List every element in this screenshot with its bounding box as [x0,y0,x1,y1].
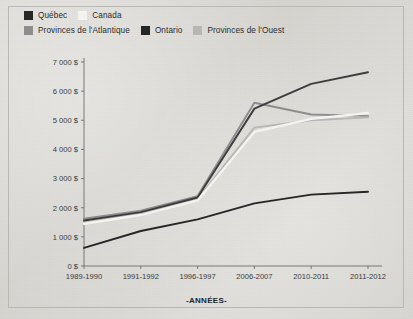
x-tick-label: 1996-1997 [179,272,215,281]
y-tick-label: 0 $ [67,262,78,271]
chart-figure: Québec Canada Provinces de l'Atlantique … [0,0,413,319]
y-tick-label: 6 000 $ [53,87,79,96]
x-tick-label: 2010-2011 [293,272,329,281]
plot-area: 0 $1 000 $2 000 $3 000 $4 000 $5 000 $6 … [0,0,413,319]
y-tick-label: 3 000 $ [53,174,79,183]
y-tick-label: 4 000 $ [53,145,79,154]
x-tick-label: 2006-2007 [236,272,272,281]
x-axis-title: -ANNÉES- [0,296,413,305]
series-line-canada [84,113,368,224]
y-tick-label: 1 000 $ [53,233,79,242]
x-tick-label: 2011-2012 [350,272,386,281]
series-line-ontario [84,72,368,220]
line-chart-svg: 0 $1 000 $2 000 $3 000 $4 000 $5 000 $6 … [0,0,413,319]
y-tick-label: 5 000 $ [53,116,79,125]
x-tick-label: 1989-1990 [66,272,102,281]
x-tick-label: 1991-1992 [123,272,159,281]
series-line-qu-bec [84,192,368,248]
y-tick-label: 2 000 $ [53,204,79,213]
y-tick-label: 7 000 $ [53,58,79,67]
series-line-provinces-de-l-ouest [84,117,368,222]
